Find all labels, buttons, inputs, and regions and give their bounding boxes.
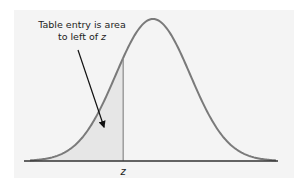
annotation-line-1: Table entry is area bbox=[37, 19, 126, 30]
annotation-line-2: to left of z bbox=[58, 31, 107, 42]
normal-curve-diagram: Table entry is area to left of z z bbox=[0, 0, 303, 191]
z-axis-label: z bbox=[120, 166, 127, 177]
arrow-pointer bbox=[78, 50, 104, 127]
shaded-area-left-of-z bbox=[30, 58, 123, 161]
